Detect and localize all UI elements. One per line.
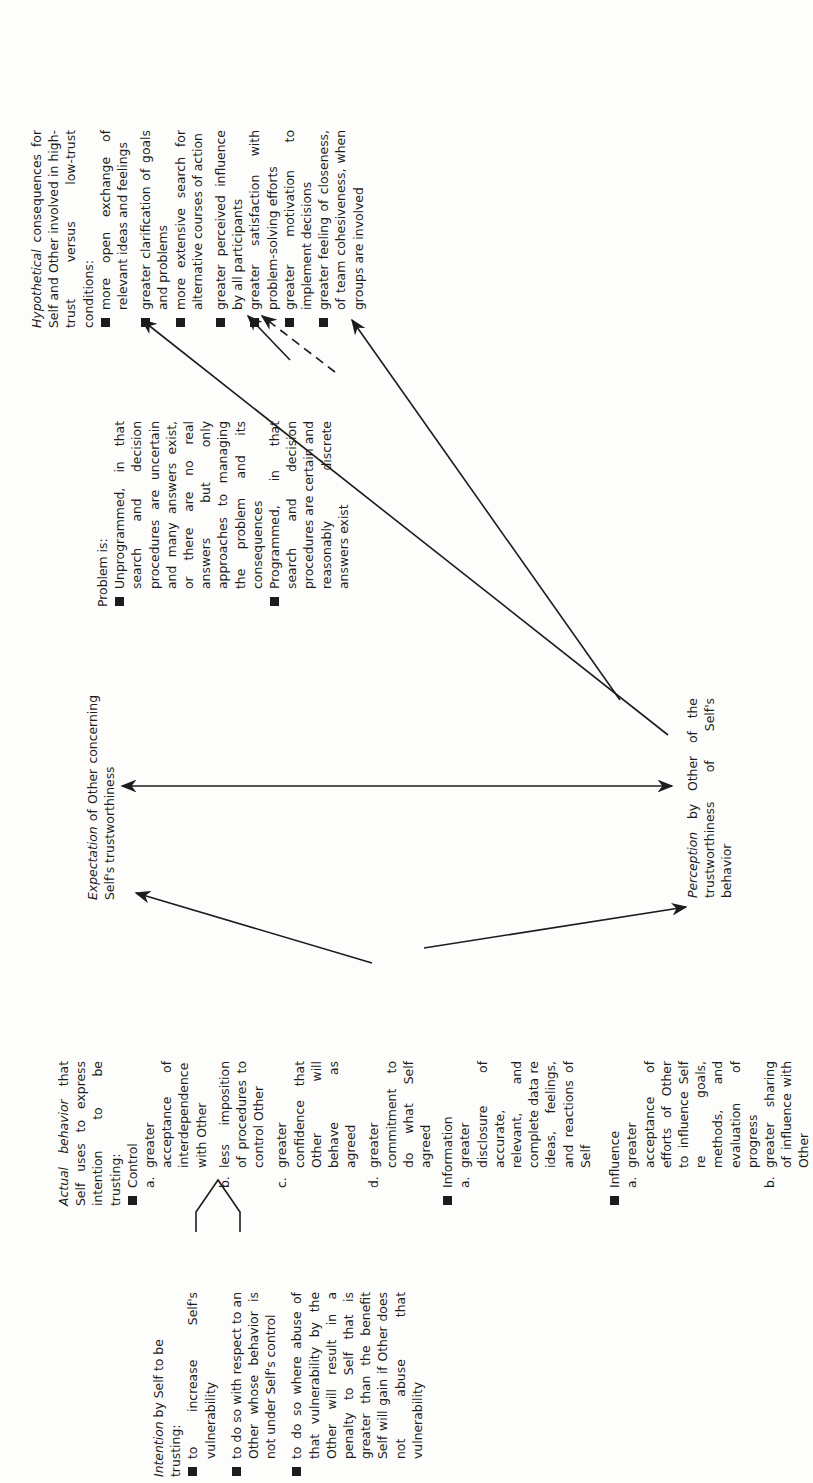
- arrow-programmed-to-consequences-dashed: [262, 316, 335, 372]
- figure-caption-truncated: [790, 0, 804, 1483]
- arrow-perception-to-programmed: [352, 320, 620, 700]
- arrow-perception-to-unprogrammed: [142, 320, 668, 735]
- arrow-unprogrammed-to-consequences: [248, 316, 290, 360]
- arrow-information-to-perception: [424, 907, 686, 948]
- arrow-control-to-expectation: [136, 893, 372, 963]
- bracket-arrow-intention-to-behavior: [196, 1180, 240, 1232]
